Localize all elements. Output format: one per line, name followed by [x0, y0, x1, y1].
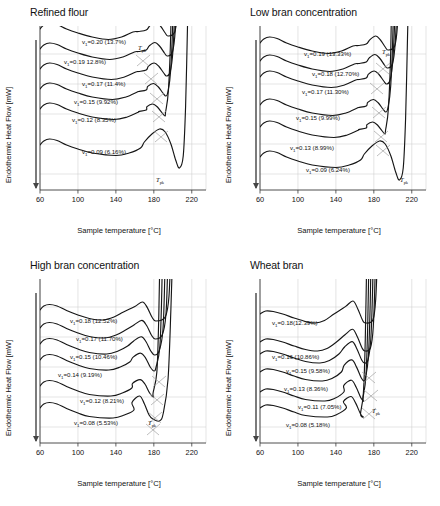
- x-tick-label: 180: [148, 195, 160, 204]
- y-axis-label-text: Endothermic Heat Flow [mW]: [4, 60, 13, 210]
- x-tick-label: 220: [186, 448, 198, 457]
- tangent-line: [365, 390, 378, 401]
- series-label: v1=0.16 (10.86%): [272, 353, 319, 362]
- dsc-curve: [40, 277, 167, 355]
- panel-low-bran: Low bran concentration Endothermic Heat …: [220, 0, 440, 253]
- dsc-curve: [40, 277, 173, 321]
- x-tick-label: 100: [72, 195, 84, 204]
- series-label: v1=0.12 (8.21%): [80, 397, 124, 406]
- series-label: v1=0.15 (9.92%): [74, 98, 118, 107]
- plot-area-2: v1=0.18 (12.52%)v1=0.17 (11.70%)v1=0.15 …: [30, 277, 208, 457]
- tpk-annotation: Tpk: [156, 176, 165, 185]
- x-tick-label: 100: [292, 448, 304, 457]
- x-tick-label: 140: [110, 448, 122, 457]
- tangent-line: [136, 55, 149, 66]
- x-tick-label: 220: [406, 195, 418, 204]
- y-axis-arrowhead: [253, 183, 259, 189]
- chart-3: v1=0.18(12.39%)v1=0.16 (10.86%)v1=0.15 (…: [250, 277, 428, 457]
- y-axis-label-text: Endothermic Heat Flow [mW]: [224, 313, 233, 463]
- y-axis-label-text: Endothermic Heat Flow [mW]: [224, 60, 233, 210]
- panel-refined-flour: Refined flour Endothermic Heat Flow [mW]…: [0, 0, 220, 253]
- x-tick-label: 60: [256, 195, 264, 204]
- chart-1: v1=0.19 (13.33%)v1=0.18 (12.70%)v1=0.17 …: [250, 24, 428, 204]
- tangent-line: [153, 111, 166, 122]
- x-tick-label: 220: [406, 448, 418, 457]
- x-tick-label: 220: [186, 195, 198, 204]
- x-tick-label: 140: [330, 195, 342, 204]
- series-label: v1=0.15 (10.46%): [70, 353, 117, 362]
- series-label: v1=0.17 (11.4%): [82, 80, 126, 89]
- tangent-line: [155, 131, 168, 142]
- series-label: v1=0.20 (13.7%): [82, 38, 126, 47]
- dsc-curve: [260, 277, 380, 323]
- figure-grid: Refined flour Endothermic Heat Flow [mW]…: [0, 0, 440, 506]
- series-label: v1=0.08 (5.53%): [74, 419, 118, 428]
- dsc-curve: [40, 24, 175, 100]
- tpk-annotation: Tpk: [400, 176, 409, 185]
- dsc-curve: [40, 24, 177, 80]
- series-label: v1=0.15 (9.58%): [286, 367, 330, 376]
- x-tick-label: 180: [148, 448, 160, 457]
- tangent-line: [377, 145, 390, 156]
- tangent-line: [153, 376, 166, 387]
- tangent-line: [373, 107, 386, 118]
- series-label: v1=0.14 (9.19%): [58, 371, 102, 380]
- panel-wheat-bran: Wheat bran Endothermic Heat Flow [mW] v1…: [220, 253, 440, 506]
- curves-group: v1=0.18 (12.52%)v1=0.17 (11.70%)v1=0.15 …: [40, 277, 173, 435]
- chart-2: v1=0.18 (12.52%)v1=0.17 (11.70%)v1=0.15 …: [30, 277, 208, 457]
- dsc-curve: [260, 277, 367, 417]
- tangent-line: [151, 93, 164, 104]
- dsc-curve: [260, 277, 372, 381]
- curves-group: v1=0.20 (13.7%)v1=0.19 12.8%)v1=0.17 (11…: [40, 24, 189, 185]
- curves-group: v1=0.18(12.39%)v1=0.16 (10.86%)v1=0.15 (…: [260, 277, 381, 430]
- series-label: v1=0.18 (12.52%): [70, 317, 117, 326]
- panel-title: High bran concentration: [30, 259, 139, 271]
- panel-title: Low bran concentration: [250, 6, 357, 18]
- tpk-annotation: Tpk: [372, 407, 381, 416]
- series-label: v1=0.11 (7.05%): [298, 403, 342, 412]
- tangent-line: [371, 83, 384, 94]
- series-label: v1=0.13 (8.99%): [290, 144, 334, 153]
- tangent-line: [137, 55, 150, 66]
- x-tick-label: 60: [36, 448, 44, 457]
- plot-area-0: v1=0.20 (13.7%)v1=0.19 12.8%)v1=0.17 (11…: [30, 24, 208, 204]
- x-axis-label: Sample temperature [°C]: [250, 479, 428, 488]
- curves-group: v1=0.19 (13.33%)v1=0.18 (12.70%)v1=0.17 …: [260, 24, 409, 185]
- tangent-line: [150, 394, 163, 405]
- tangent-line: [144, 73, 157, 84]
- x-tick-label: 140: [330, 448, 342, 457]
- y-axis-arrowhead: [33, 436, 39, 442]
- plot-area-1: v1=0.19 (13.33%)v1=0.18 (12.70%)v1=0.17 …: [250, 24, 428, 204]
- series-label: v1=0.19 (13.33%): [304, 50, 351, 59]
- y-axis-arrowhead: [253, 436, 259, 442]
- x-tick-label: 60: [36, 195, 44, 204]
- series-label: v1=0.09 (6.24%): [306, 166, 350, 175]
- series-label: v1=0.19 12.8%): [64, 58, 106, 67]
- series-label: v1=0.17 (11.30%): [302, 88, 349, 97]
- x-tick-label: 60: [256, 448, 264, 457]
- series-label: v1=0.08 (5.18%): [286, 421, 330, 430]
- dsc-curve: [260, 24, 399, 72]
- tangent-line: [145, 73, 158, 84]
- panel-title: Wheat bran: [250, 259, 303, 271]
- series-label: v1=0.13 (8.36%): [284, 385, 328, 394]
- x-tick-label: 180: [368, 195, 380, 204]
- series-label: v1=0.12 (8.35%): [72, 116, 116, 125]
- y-axis-label-text: Endothermic Heat Flow [mW]: [4, 313, 13, 463]
- tangent-line: [370, 83, 383, 94]
- x-axis-label: Sample temperature [°C]: [30, 479, 208, 488]
- series-label: v1=0.15 (9.99%): [296, 114, 340, 123]
- dsc-curve: [40, 277, 170, 339]
- tangent-line: [375, 131, 388, 142]
- panel-title: Refined flour: [30, 6, 88, 18]
- dsc-curve: [260, 24, 409, 180]
- x-axis-label: Sample temperature [°C]: [250, 226, 428, 235]
- tangent-line: [150, 93, 163, 104]
- series-label: v1=0.18(12.39%): [272, 319, 318, 328]
- y-axis-arrowhead: [33, 183, 39, 189]
- x-tick-label: 100: [292, 195, 304, 204]
- x-tick-label: 100: [72, 448, 84, 457]
- x-tick-label: 140: [110, 195, 122, 204]
- panel-high-bran: High bran concentration Endothermic Heat…: [0, 253, 220, 506]
- x-axis-label: Sample temperature [°C]: [30, 226, 208, 235]
